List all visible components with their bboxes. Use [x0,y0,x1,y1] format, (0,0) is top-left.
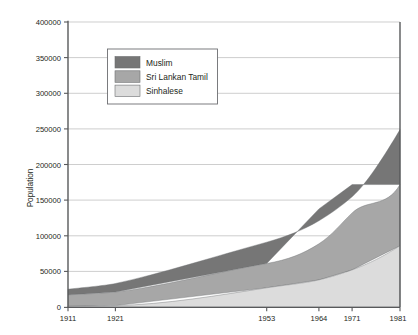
y-tick-label-150000: 150000 [36,196,61,205]
y-tick-label-300000: 300000 [36,89,61,98]
x-tick-label-1911: 1911 [60,314,76,323]
x-tick-label-1964: 1964 [310,314,327,323]
y-tick-label-200000: 200000 [36,161,61,170]
legend-label-muslim: Muslim [146,58,173,68]
y-tick-label-250000: 250000 [36,125,61,134]
y-tick-label-350000: 350000 [36,54,61,63]
x-tick-label-1921: 1921 [107,314,124,323]
y-tick-label-0: 0 [57,303,61,312]
chart-canvas: 400000 350000 300000 250000 200000 15000… [0,0,418,335]
x-tick-label-1971: 1971 [344,314,361,323]
legend-swatch-sri-lankan-tamil [115,71,140,83]
chart-legend: Muslim Sri Lankan Tamil Sinhalese [108,49,218,104]
legend-swatch-sinhalese [115,85,140,97]
x-tick-label-1953: 1953 [258,314,275,323]
x-tick-label-1981: 1981 [390,314,407,323]
legend-label-sri-lankan-tamil: Sri Lankan Tamil [146,72,208,82]
legend-label-sinhalese: Sinhalese [146,86,183,96]
y-tick-label-400000: 400000 [36,18,61,27]
y-tick-label-50000: 50000 [40,267,61,276]
legend-swatch-muslim [115,57,140,69]
y-tick-labels: 400000 350000 300000 250000 200000 15000… [36,18,61,312]
y-tick-label-100000: 100000 [36,232,61,241]
y-axis-title: Population [26,168,35,207]
population-area-chart: 400000 350000 300000 250000 200000 15000… [0,0,418,335]
